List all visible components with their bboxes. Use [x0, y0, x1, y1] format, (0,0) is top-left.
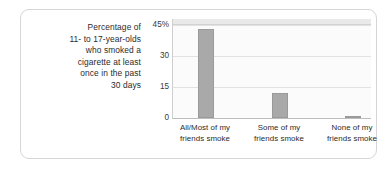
x-axis-label-some: Some of my friends smoke	[244, 123, 314, 144]
chart-caption: Percentage of 11- to 17-year-olds who sm…	[27, 22, 141, 92]
y-axis-tick-label: 0	[143, 114, 169, 122]
plot-area	[172, 19, 371, 119]
bar-chart: 45% 30 15 0 All/Most of my friends smoke…	[143, 19, 371, 151]
figure-card: Percentage of 11- to 17-year-olds who sm…	[20, 9, 377, 159]
x-label-line: None of my	[317, 123, 387, 134]
x-label-line: Some of my	[244, 123, 314, 134]
x-label-line: friends smoke	[317, 134, 387, 145]
x-axis-label-all-most: All/Most of my friends smoke	[170, 123, 240, 144]
y-axis-tick-label: 45%	[143, 21, 169, 29]
x-axis-labels: All/Most of my friends smoke Some of my …	[172, 123, 371, 149]
caption-line: once in the past	[27, 68, 141, 80]
y-axis-tick-label: 15	[143, 83, 169, 91]
caption-line: Percentage of	[27, 22, 141, 34]
x-axis-label-none: None of my friends smoke	[317, 123, 387, 144]
caption-line: who smoked a	[27, 45, 141, 57]
caption-line: 11- to 17-year-olds	[27, 34, 141, 46]
y-axis: 45% 30 15 0	[143, 19, 169, 119]
x-label-line: All/Most of my	[170, 123, 240, 134]
y-axis-tick-label: 30	[143, 52, 169, 60]
bar-all-most-friends-smoke	[198, 29, 214, 118]
bar-none-friends-smoke	[345, 116, 361, 118]
caption-line: 30 days	[27, 80, 141, 92]
bar-some-friends-smoke	[272, 93, 288, 118]
caption-line: cigarette at least	[27, 57, 141, 69]
bar-series	[173, 19, 371, 118]
x-label-line: friends smoke	[244, 134, 314, 145]
x-label-line: friends smoke	[170, 134, 240, 145]
